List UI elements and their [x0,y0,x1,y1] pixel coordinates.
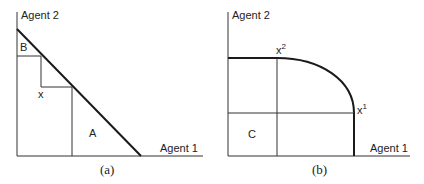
panel-a-frontier [17,29,141,156]
panel-a-y-axis-label: Agent 2 [21,9,59,21]
panel-b-x-axis-label: Agent 1 [370,142,408,154]
panel-b-y-axis-label: Agent 2 [232,9,270,21]
panel-b: Agent 2 Agent 1 x2 x1 C (b) [228,9,410,177]
region-a-label: A [89,127,97,139]
panel-a-caption: (a) [100,162,114,177]
panel-a-x-axis-label: Agent 1 [160,142,198,154]
point-x-label: x [38,88,44,100]
region-c-label: C [248,128,256,140]
panel-a: Agent 2 Agent 1 B x A (a) [17,9,203,177]
diagram-canvas: Agent 2 Agent 1 B x A (a) Agent 2 Agent … [0,0,424,184]
panel-b-caption: (b) [312,162,327,177]
point-x1-label: x1 [357,102,368,116]
region-b-label: B [20,41,27,53]
point-x2-label: x2 [276,42,287,56]
panel-b-frontier [228,58,354,156]
